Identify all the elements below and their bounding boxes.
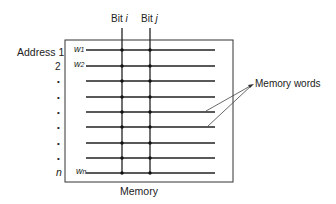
address-row-dot: • [57,123,60,133]
address-row-dot: • [57,154,60,164]
address-row-dot: • [57,108,60,118]
address-row-2: 2 [55,62,61,72]
memory-title: Memory [120,186,158,196]
diagram-graphics [0,0,336,204]
callout-arrows [206,85,252,126]
address-row-dot: • [57,139,60,149]
word-label-w1: w1 [74,44,84,55]
word-label-wn: wn [76,166,86,177]
address-row-dot: • [57,93,60,103]
bit-j-label: Bit j [141,14,158,24]
bit-i-label: Bit i [111,14,128,24]
address-label: Address 1 [17,47,64,57]
memory-organization-diagram: Bit i Bit j Address 1 2 • • • • • • n w1… [0,0,336,204]
address-row-n: n [56,167,62,177]
word-label-w2: w2 [74,59,84,70]
address-row-dot: • [57,77,60,87]
memory-words-label: Memory words [255,79,321,89]
